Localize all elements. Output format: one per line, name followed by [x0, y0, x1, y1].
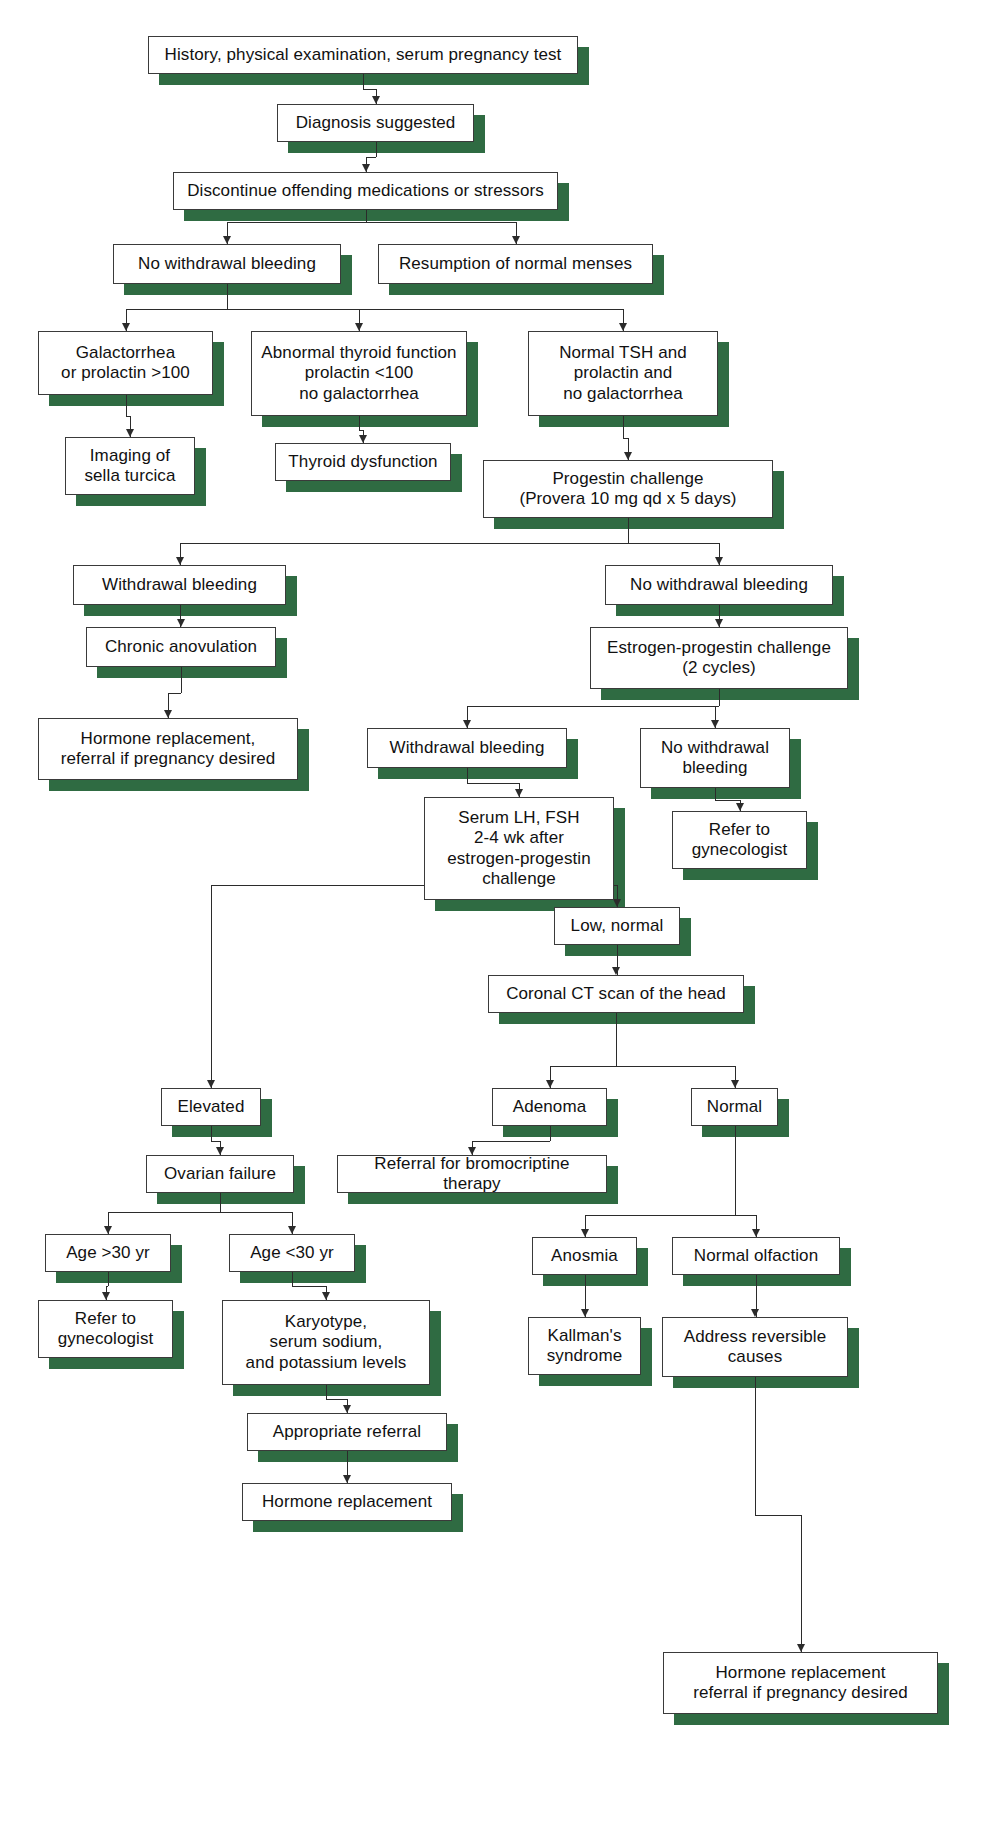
node-karyotype[interactable]: Karyotype, serum sodium, and potassium l…: [222, 1300, 430, 1385]
connector-karyotype-to-appropriate: [326, 1399, 347, 1400]
node-kallmans[interactable]: Kallman's syndrome: [528, 1317, 641, 1375]
node-discontinue[interactable]: Discontinue offending medications or str…: [173, 172, 558, 210]
node-label: Elevated: [170, 1097, 253, 1117]
node-label: Hormone replacement referral if pregnanc…: [685, 1663, 916, 1703]
connector-discontinue-split: [366, 210, 367, 222]
node-withdrawal-1[interactable]: Withdrawal bleeding: [73, 565, 286, 605]
node-label: Progestin challenge (Provera 10 mg qd x …: [511, 469, 744, 509]
node-label: Kallman's syndrome: [539, 1326, 630, 1366]
arrow-karyotype-to-appropriate: [343, 1405, 351, 1413]
node-label: Hormone replacement, referral if pregnan…: [53, 729, 284, 769]
connector-history-to-diagnosis: [363, 89, 376, 90]
node-coronal-ct[interactable]: Coronal CT scan of the head: [488, 975, 744, 1013]
node-anosmia[interactable]: Anosmia: [532, 1237, 637, 1275]
arrow-withdrawal-1-to-anovulation: [177, 619, 185, 627]
node-label: Abnormal thyroid function prolactin <100…: [253, 343, 464, 403]
node-galactorrhea[interactable]: Galactorrhea or prolactin >100: [38, 331, 213, 395]
node-label: Appropriate referral: [265, 1422, 429, 1442]
arrow-discontinue-split: [512, 236, 520, 244]
connector-galactorrhea-to-imaging: [126, 395, 127, 416]
node-normal-olfaction[interactable]: Normal olfaction: [672, 1237, 840, 1275]
node-ovarian-failure[interactable]: Ovarian failure: [146, 1155, 294, 1193]
node-label: No withdrawal bleeding: [653, 738, 777, 778]
node-thyroid-dysfunction[interactable]: Thyroid dysfunction: [275, 443, 451, 481]
connector-adenoma-to-bromo: [550, 1126, 551, 1141]
node-label: Referral for bromocriptine therapy: [338, 1154, 606, 1194]
node-address-reversible[interactable]: Address reversible causes: [662, 1317, 848, 1377]
arrow-normal-split: [581, 1229, 589, 1237]
node-chronic-anovulation[interactable]: Chronic anovulation: [86, 627, 276, 667]
node-no-withdrawal-2[interactable]: No withdrawal bleeding: [605, 565, 833, 605]
node-withdrawal-2[interactable]: Withdrawal bleeding: [367, 728, 567, 768]
connector-ct-split: [616, 1013, 617, 1066]
node-label: Imaging of sella turcica: [76, 446, 183, 486]
node-hormone-repl-1[interactable]: Hormone replacement, referral if pregnan…: [38, 718, 298, 780]
connector-anovulation-to-hormone: [181, 667, 182, 693]
node-age-under-30[interactable]: Age <30 yr: [229, 1234, 355, 1272]
arrow-ovarian-split: [104, 1226, 112, 1234]
node-label: Resumption of normal menses: [391, 254, 640, 274]
connector-normal-tsh-to-progestin: [623, 416, 624, 438]
connector-elevated-to-ovarian: [211, 1141, 220, 1142]
node-no-withdrawal-1[interactable]: No withdrawal bleeding: [113, 244, 341, 284]
node-progestin[interactable]: Progestin challenge (Provera 10 mg qd x …: [483, 460, 773, 518]
node-label: Discontinue offending medications or str…: [179, 181, 552, 201]
node-refer-gyn-2[interactable]: Refer to gynecologist: [38, 1300, 173, 1358]
node-label: Low, normal: [563, 916, 672, 936]
connector-address-to-hormone: [801, 1515, 802, 1653]
connector-progestin-split: [628, 518, 629, 543]
node-label: Adenoma: [505, 1097, 594, 1117]
arrow-estrogen-split: [711, 720, 719, 728]
arrow-estrogen-split: [463, 720, 471, 728]
connector-withdrawal-2-to-serum: [467, 783, 519, 784]
connector-adenoma-to-bromo: [472, 1141, 550, 1142]
node-label: No withdrawal bleeding: [622, 575, 816, 595]
node-elevated[interactable]: Elevated: [161, 1088, 261, 1126]
node-label: Chronic anovulation: [97, 637, 265, 657]
node-label: Age >30 yr: [58, 1243, 158, 1263]
arrow-normal-tsh-to-progestin: [624, 452, 632, 460]
node-label: Estrogen-progestin challenge (2 cycles): [599, 638, 839, 678]
arrow-age-over-30-to-refer: [102, 1292, 110, 1300]
node-refer-gyn-1[interactable]: Refer to gynecologist: [672, 811, 807, 869]
node-label: Refer to gynecologist: [50, 1309, 162, 1349]
node-referral-bromo[interactable]: Referral for bromocriptine therapy: [337, 1155, 607, 1193]
connector-no-withdrawal-3-to-refer: [715, 788, 716, 800]
arrow-no-withdrawal-3-to-refer: [736, 803, 744, 811]
node-label: Coronal CT scan of the head: [498, 984, 734, 1004]
node-normal-tsh[interactable]: Normal TSH and prolactin and no galactor…: [528, 331, 718, 416]
node-diagnosis[interactable]: Diagnosis suggested: [277, 104, 474, 142]
node-serum-lh-fsh[interactable]: Serum LH, FSH 2-4 wk after estrogen-prog…: [424, 797, 614, 900]
connector-progestin-split: [180, 543, 719, 544]
arrow-galactorrhea-to-imaging: [126, 429, 134, 437]
node-abnormal-thyroid[interactable]: Abnormal thyroid function prolactin <100…: [251, 331, 467, 416]
node-adenoma[interactable]: Adenoma: [492, 1088, 607, 1126]
node-imaging-sella[interactable]: Imaging of sella turcica: [65, 437, 195, 495]
connector-history-to-diagnosis: [363, 74, 364, 89]
node-hormone-repl-3[interactable]: Hormone replacement referral if pregnanc…: [663, 1652, 938, 1714]
arrow-ct-split: [731, 1080, 739, 1088]
connector-estrogen-split: [719, 689, 720, 706]
node-hormone-repl-2[interactable]: Hormone replacement: [242, 1483, 452, 1521]
node-age-over-30[interactable]: Age >30 yr: [45, 1234, 171, 1272]
node-appropriate-referral[interactable]: Appropriate referral: [247, 1413, 447, 1451]
node-normal[interactable]: Normal: [691, 1088, 778, 1126]
arrow-ct-split: [546, 1080, 554, 1088]
node-label: Serum LH, FSH 2-4 wk after estrogen-prog…: [439, 808, 599, 888]
node-label: Withdrawal bleeding: [382, 738, 553, 758]
connector-estrogen-split: [467, 706, 719, 707]
connector-normal-split: [585, 1215, 756, 1216]
connector-ovarian-split: [220, 1193, 221, 1212]
arrow-serum-split: [613, 899, 621, 907]
node-resumption[interactable]: Resumption of normal menses: [378, 244, 653, 284]
node-low-normal[interactable]: Low, normal: [554, 907, 680, 945]
connector-no-withdrawal-1-split: [227, 284, 228, 309]
arrow-no-withdrawal-1-split: [355, 323, 363, 331]
node-history[interactable]: History, physical examination, serum pre…: [148, 36, 578, 74]
node-estrogen-progestin[interactable]: Estrogen-progestin challenge (2 cycles): [590, 627, 848, 689]
node-label: No withdrawal bleeding: [130, 254, 324, 274]
connector-address-to-hormone: [755, 1515, 801, 1516]
arrow-address-to-hormone: [797, 1644, 805, 1652]
connector-no-withdrawal-1-split: [126, 309, 623, 310]
node-no-withdrawal-3[interactable]: No withdrawal bleeding: [640, 728, 790, 788]
